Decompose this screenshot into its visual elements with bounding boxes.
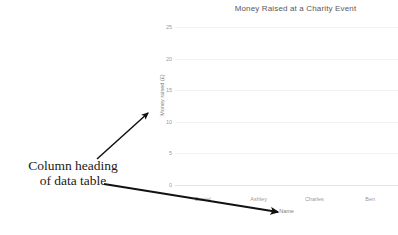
x-tick-label-ben: Ben <box>365 196 375 202</box>
chart-title: Money Raised at a Charity Event <box>193 4 398 13</box>
annotation-line-2: of data table <box>8 173 138 188</box>
y-tick-label-5: 5 <box>156 150 172 156</box>
gridline-25 <box>175 27 398 28</box>
bar-chart[interactable]: Money Raised at a Charity Event 25 20 15… <box>153 0 398 222</box>
x-axis-ticks: Daniel Ashley Charles Ben <box>175 196 398 206</box>
x-tick-label-daniel: Daniel <box>195 196 211 202</box>
y-axis-title: Money raised (£) <box>159 60 165 130</box>
arrow-to-y-axis-title <box>97 113 148 159</box>
x-tick-label-charles: Charles <box>305 196 324 202</box>
annotation-line-1: Column heading <box>8 158 138 173</box>
gridline-20 <box>175 59 398 60</box>
x-tick-label-ashley: Ashley <box>250 196 267 202</box>
y-tick-label-25: 25 <box>156 24 172 30</box>
chart-screenshot: Money Raised at a Charity Event 25 20 15… <box>0 0 398 235</box>
y-tick-label-0: 0 <box>156 182 172 188</box>
annotation-label: Column heading of data table <box>8 158 138 188</box>
x-axis-title: Name <box>175 208 398 214</box>
gridline-5 <box>175 153 398 154</box>
plot-area[interactable] <box>175 27 398 185</box>
gridline-15 <box>175 90 398 91</box>
x-axis-line <box>175 185 398 186</box>
gridline-10 <box>175 122 398 123</box>
